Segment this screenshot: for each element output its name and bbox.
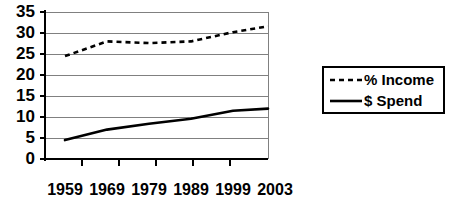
y-label-15: 15: [16, 86, 35, 105]
x-label-1979: 1979: [131, 181, 167, 198]
y-label-25: 25: [16, 44, 35, 63]
legend-label-percent-income: % Income: [364, 71, 434, 88]
x-label-2003: 2003: [257, 181, 293, 198]
line-chart: 35 30 25 20 15 10 5 0 1959 1969 1979 198…: [0, 0, 452, 217]
y-label-35: 35: [16, 2, 35, 21]
x-label-1989: 1989: [173, 181, 209, 198]
x-label-1969: 1969: [89, 181, 125, 198]
y-label-0: 0: [26, 149, 35, 168]
y-label-30: 30: [16, 23, 35, 42]
y-label-5: 5: [26, 128, 35, 147]
y-label-10: 10: [16, 107, 35, 126]
y-label-20: 20: [16, 65, 35, 84]
legend-label-dollar-spend: $ Spend: [364, 92, 422, 109]
x-label-1959: 1959: [47, 181, 83, 198]
chart-legend: % Income $ Spend: [323, 67, 444, 113]
x-label-1999: 1999: [215, 181, 251, 198]
chart-container: 35 30 25 20 15 10 5 0 1959 1969 1979 198…: [0, 0, 452, 217]
